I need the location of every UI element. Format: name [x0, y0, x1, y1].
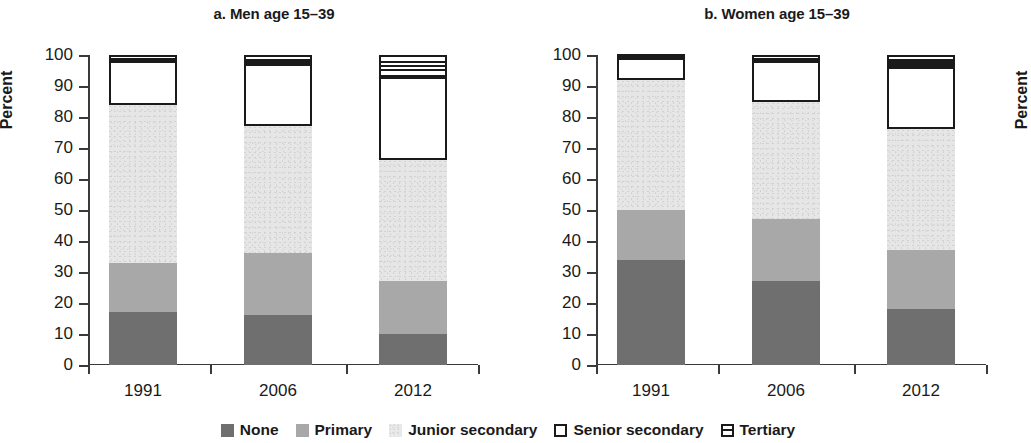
- bar-segment-none[interactable]: [617, 260, 685, 365]
- legend-swatch-icon: [221, 424, 234, 437]
- y-tick: 60: [79, 179, 88, 181]
- y-tick: 50: [587, 210, 596, 212]
- y-tick-label: 40: [562, 231, 581, 251]
- bar-segment-junior[interactable]: [887, 129, 955, 250]
- bar-segment-none[interactable]: [244, 315, 312, 365]
- bar-segment-tertiary[interactable]: [109, 55, 177, 61]
- bar-segment-tertiary[interactable]: [752, 55, 820, 61]
- panel-title-women: b. Women age 15–39: [508, 5, 1016, 22]
- bar-segment-senior[interactable]: [379, 77, 447, 161]
- tertiary-rule: [381, 61, 445, 63]
- y-tick: 80: [79, 117, 88, 119]
- bar-1991[interactable]: [617, 55, 685, 365]
- bar-2012[interactable]: [379, 55, 447, 365]
- bar-segment-tertiary[interactable]: [244, 55, 312, 64]
- x-tick-label-1991: 1991: [124, 381, 162, 401]
- x-tick: [854, 365, 856, 374]
- x-tick-label-2012: 2012: [394, 381, 432, 401]
- bar-segment-primary[interactable]: [617, 210, 685, 260]
- bar-segment-senior[interactable]: [887, 67, 955, 129]
- bar-segment-primary[interactable]: [109, 263, 177, 313]
- bar-segment-junior[interactable]: [379, 160, 447, 281]
- y-tick: 90: [79, 86, 88, 88]
- bar-segment-junior[interactable]: [109, 105, 177, 263]
- bar-1991[interactable]: [109, 55, 177, 365]
- bar-segment-junior[interactable]: [244, 126, 312, 253]
- x-tick: [718, 365, 720, 374]
- y-axis-line-men: [88, 55, 90, 365]
- y-tick: 30: [79, 272, 88, 274]
- y-tick: 40: [587, 241, 596, 243]
- y-tick: 0: [79, 365, 88, 367]
- bar-segment-primary[interactable]: [752, 219, 820, 281]
- x-tick: [986, 365, 988, 374]
- y-tick: 100: [79, 55, 88, 57]
- y-tick-label: 0: [64, 355, 73, 375]
- tertiary-rule: [381, 69, 445, 71]
- y-tick-label: 80: [54, 107, 73, 127]
- legend-label: Senior secondary: [573, 421, 703, 439]
- legend-item-senior-secondary[interactable]: Senior secondary: [554, 421, 703, 439]
- y-tick: 70: [587, 148, 596, 150]
- legend-swatch-icon: [554, 424, 567, 437]
- bar-segment-none[interactable]: [379, 334, 447, 365]
- legend-label: Tertiary: [740, 421, 796, 439]
- bar-segment-primary[interactable]: [887, 250, 955, 309]
- y-axis-label-men: Percent: [0, 40, 16, 160]
- bar-segment-none[interactable]: [887, 309, 955, 365]
- tertiary-rule: [754, 58, 818, 60]
- legend-swatch-icon: [389, 424, 402, 437]
- chart-legend: NonePrimaryJunior secondarySenior second…: [0, 421, 1016, 439]
- bar-2012[interactable]: [887, 55, 955, 365]
- y-tick-label: 60: [562, 169, 581, 189]
- x-tick: [88, 365, 90, 374]
- y-tick-label: 70: [562, 138, 581, 158]
- legend-item-junior-secondary[interactable]: Junior secondary: [389, 421, 537, 439]
- y-tick-label: 90: [54, 76, 73, 96]
- bar-segment-tertiary[interactable]: [379, 55, 447, 77]
- y-tick-label: 10: [562, 324, 581, 344]
- y-tick: 60: [587, 179, 596, 181]
- x-tick: [210, 365, 212, 374]
- tertiary-rule: [889, 63, 953, 65]
- y-axis-label-women: Percent: [1013, 40, 1031, 160]
- bar-segment-senior[interactable]: [244, 64, 312, 126]
- y-tick-label: 20: [54, 293, 73, 313]
- bar-segment-tertiary[interactable]: [887, 55, 955, 67]
- y-tick-label: 90: [562, 76, 581, 96]
- bar-segment-senior[interactable]: [752, 61, 820, 101]
- legend-item-none[interactable]: None: [221, 421, 279, 439]
- legend-label: Primary: [315, 421, 373, 439]
- y-tick-label: 20: [562, 293, 581, 313]
- bar-segment-junior[interactable]: [617, 80, 685, 210]
- y-tick: 70: [79, 148, 88, 150]
- tertiary-rule: [381, 65, 445, 67]
- x-tick-label-2006: 2006: [259, 381, 297, 401]
- bar-segment-senior[interactable]: [109, 61, 177, 104]
- y-tick: 100: [587, 55, 596, 57]
- y-tick-label: 40: [54, 231, 73, 251]
- legend-item-primary[interactable]: Primary: [296, 421, 373, 439]
- y-tick: 50: [79, 210, 88, 212]
- legend-swatch-icon: [296, 424, 309, 437]
- panel-title-men: a. Men age 15–39: [0, 5, 508, 22]
- bar-segment-none[interactable]: [752, 281, 820, 365]
- chart-panel-women: b. Women age 15–39 Percent 0102030405060…: [508, 0, 1016, 400]
- y-tick: 20: [587, 303, 596, 305]
- legend-label: Junior secondary: [408, 421, 537, 439]
- bar-segment-primary[interactable]: [244, 253, 312, 315]
- plot-area-men: 0102030405060708090100 199120062012: [88, 55, 478, 365]
- bar-segment-none[interactable]: [109, 312, 177, 365]
- bar-segment-tertiary[interactable]: [617, 54, 685, 58]
- bar-segment-primary[interactable]: [379, 281, 447, 334]
- legend-item-tertiary[interactable]: Tertiary: [721, 421, 796, 439]
- y-tick-label: 0: [572, 355, 581, 375]
- plot-area-women: 0102030405060708090100 199120062012: [596, 55, 986, 365]
- y-tick-label: 100: [45, 45, 73, 65]
- bar-segment-senior[interactable]: [617, 58, 685, 80]
- bar-2006[interactable]: [752, 55, 820, 365]
- y-tick: 30: [587, 272, 596, 274]
- bar-segment-junior[interactable]: [752, 102, 820, 220]
- bar-2006[interactable]: [244, 55, 312, 365]
- x-tick: [346, 365, 348, 374]
